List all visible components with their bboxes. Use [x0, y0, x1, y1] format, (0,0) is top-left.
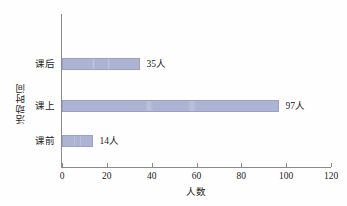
- bar-value-label-keshang: 97人: [279, 100, 305, 112]
- y-axis-title: 活动时间: [13, 58, 29, 148]
- x-axis-tick-mark: [107, 163, 108, 167]
- x-axis-tick-mark: [62, 163, 63, 167]
- x-axis-tick-label: 20: [94, 170, 120, 182]
- x-axis-tick-label: 40: [139, 170, 165, 182]
- x-axis-tick-label: 60: [184, 170, 210, 182]
- y-axis-tick-label-keshang: 课上: [30, 100, 60, 112]
- horizontal-bar-chart: 活动时间 课后 课上 课前 35人 97人 14人 02040608010012…: [0, 0, 347, 206]
- y-axis-tick-label-keqian: 课前: [30, 135, 60, 147]
- x-axis-tick-label: 100: [273, 170, 299, 182]
- x-axis-tick-mark: [152, 163, 153, 167]
- bar-value-label-kehou: 35人: [140, 58, 166, 70]
- x-axis-line: [61, 167, 331, 168]
- x-axis-tick-label: 0: [49, 170, 75, 182]
- y-axis-tick-label-kehou: 课后: [30, 58, 60, 70]
- bar-value-label-keqian: 14人: [93, 135, 119, 147]
- x-axis-tick-label: 80: [228, 170, 254, 182]
- x-axis-tick-mark: [197, 163, 198, 167]
- x-axis-tick-mark: [331, 163, 332, 167]
- x-axis-title: 人数: [61, 186, 331, 198]
- x-axis-tick-mark: [286, 163, 287, 167]
- plot-area: 35人 97人 14人: [62, 14, 331, 167]
- bar-keshang: [62, 100, 279, 112]
- bar-keqian: [62, 135, 93, 147]
- x-axis-tick-mark: [241, 163, 242, 167]
- bar-kehou: [62, 58, 140, 70]
- x-axis-tick-label: 120: [318, 170, 344, 182]
